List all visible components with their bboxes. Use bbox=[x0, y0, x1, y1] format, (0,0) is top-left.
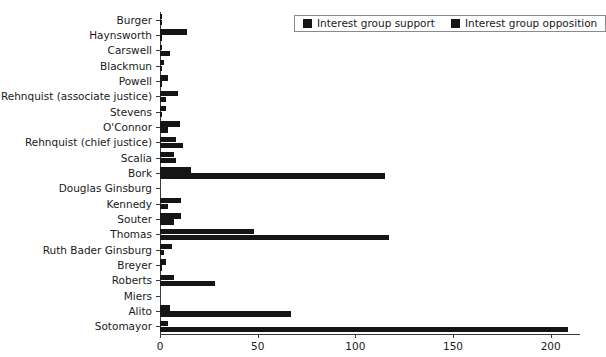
y-axis-tick-label: Scalia bbox=[121, 152, 152, 163]
bar-support bbox=[160, 14, 162, 19]
bar-opposition bbox=[160, 158, 176, 163]
bar-support bbox=[160, 75, 168, 80]
y-axis-tick-label: O'Connor bbox=[103, 122, 152, 133]
y-axis-tick-mark bbox=[156, 188, 160, 189]
y-axis-tick-label: Bork bbox=[128, 168, 152, 179]
bar-support bbox=[160, 321, 168, 326]
y-axis-tick-label: Rehnquist (associate justice) bbox=[1, 91, 152, 102]
bar-support bbox=[160, 152, 174, 157]
bar-support bbox=[160, 137, 176, 142]
bar-opposition bbox=[160, 235, 389, 240]
bar-support bbox=[160, 29, 187, 34]
chart-legend: Interest group support Interest group op… bbox=[294, 15, 606, 32]
bar-opposition bbox=[160, 127, 168, 132]
bar-support bbox=[160, 91, 178, 96]
legend-item-opposition: Interest group opposition bbox=[451, 18, 597, 29]
x-axis-tick-label: 150 bbox=[443, 340, 463, 352]
y-axis-tick-label: Alito bbox=[128, 306, 152, 317]
y-axis-tick-mark bbox=[156, 204, 160, 205]
x-axis-tick-label: 50 bbox=[251, 340, 264, 352]
y-axis-tick-label: Ruth Bader Ginsburg bbox=[43, 244, 152, 255]
y-axis-tick-label: Souter bbox=[117, 214, 152, 225]
bar-opposition bbox=[160, 35, 162, 40]
bar-opposition bbox=[160, 143, 183, 148]
x-axis-tick-label: 0 bbox=[157, 340, 164, 352]
y-axis-tick-label: Powell bbox=[119, 76, 152, 87]
y-axis-tick-mark bbox=[156, 81, 160, 82]
y-axis-tick-mark bbox=[156, 142, 160, 143]
plot-area bbox=[160, 12, 580, 334]
y-axis-tick-label: Roberts bbox=[112, 275, 152, 286]
bar-opposition bbox=[160, 173, 385, 178]
y-axis-tick-mark bbox=[156, 219, 160, 220]
y-axis-tick-mark bbox=[156, 158, 160, 159]
bar-support bbox=[160, 213, 181, 218]
bar-opposition bbox=[160, 112, 162, 117]
bar-support bbox=[160, 121, 180, 126]
x-axis-tick-label: 200 bbox=[541, 340, 561, 352]
x-axis-tick-mark bbox=[355, 334, 356, 338]
x-axis-tick-mark bbox=[258, 334, 259, 338]
bar-support bbox=[160, 60, 164, 65]
y-axis-tick-label: Haynsworth bbox=[89, 30, 152, 41]
y-axis-tick-mark bbox=[156, 20, 160, 21]
y-axis-tick-mark bbox=[156, 311, 160, 312]
legend-swatch-icon bbox=[303, 19, 312, 28]
bar-opposition bbox=[160, 97, 166, 102]
y-axis-tick-label: Breyer bbox=[117, 260, 152, 271]
bar-support bbox=[160, 106, 166, 111]
y-axis-tick-label: Rehnquist (chief justice) bbox=[25, 137, 152, 148]
bar-support bbox=[160, 305, 170, 310]
x-axis-tick-mark bbox=[453, 334, 454, 338]
bar-opposition bbox=[160, 327, 568, 332]
x-axis-tick-mark bbox=[551, 334, 552, 338]
y-axis-tick-mark bbox=[156, 66, 160, 67]
bar-rows bbox=[160, 12, 580, 334]
bar-support bbox=[160, 45, 162, 50]
y-axis-tick-label: Miers bbox=[124, 290, 152, 301]
y-axis-tick-label: Kennedy bbox=[107, 198, 152, 209]
bar-support bbox=[160, 167, 191, 172]
y-axis-tick-mark bbox=[156, 326, 160, 327]
y-axis-tick-label: Stevens bbox=[110, 106, 152, 117]
bar-support bbox=[160, 198, 181, 203]
y-axis-tick-mark bbox=[156, 280, 160, 281]
y-axis-tick-mark bbox=[156, 296, 160, 297]
y-axis-labels: BurgerHaynsworthCarswellBlackmunPowellRe… bbox=[0, 12, 156, 334]
bar-support bbox=[160, 244, 172, 249]
bar-opposition bbox=[160, 51, 170, 56]
bar-support bbox=[160, 275, 174, 280]
y-axis-tick-label: Thomas bbox=[110, 229, 152, 240]
legend-swatch-icon bbox=[451, 19, 460, 28]
x-axis-line bbox=[160, 334, 580, 335]
y-axis-tick-label: Burger bbox=[117, 14, 152, 25]
bar-support bbox=[160, 229, 254, 234]
y-axis-tick-mark bbox=[156, 250, 160, 251]
x-axis-tick-label: 100 bbox=[345, 340, 365, 352]
y-axis-tick-mark bbox=[156, 173, 160, 174]
y-axis-tick-mark bbox=[156, 127, 160, 128]
legend-label-opposition: Interest group opposition bbox=[465, 18, 597, 29]
legend-item-support: Interest group support bbox=[303, 18, 435, 29]
y-axis-tick-label: Carswell bbox=[108, 45, 152, 56]
y-axis-tick-label: Blackmun bbox=[100, 60, 152, 71]
bar-opposition bbox=[160, 204, 168, 209]
bar-opposition bbox=[160, 265, 162, 270]
y-axis-tick-mark bbox=[156, 112, 160, 113]
bar-opposition bbox=[160, 66, 162, 71]
bar-opposition bbox=[160, 250, 164, 255]
bar-opposition bbox=[160, 281, 215, 286]
bar-opposition bbox=[160, 219, 174, 224]
bar-opposition bbox=[160, 81, 162, 86]
bar-opposition bbox=[160, 311, 291, 316]
y-axis-tick-mark bbox=[156, 50, 160, 51]
bar-opposition bbox=[160, 20, 162, 25]
bar-support bbox=[160, 259, 166, 264]
y-axis-tick-mark bbox=[156, 96, 160, 97]
x-axis-tick-mark bbox=[160, 334, 161, 338]
y-axis-tick-label: Douglas Ginsburg bbox=[59, 183, 152, 194]
y-axis-tick-label: Sotomayor bbox=[95, 321, 152, 332]
y-axis-tick-mark bbox=[156, 35, 160, 36]
y-axis-tick-mark bbox=[156, 234, 160, 235]
